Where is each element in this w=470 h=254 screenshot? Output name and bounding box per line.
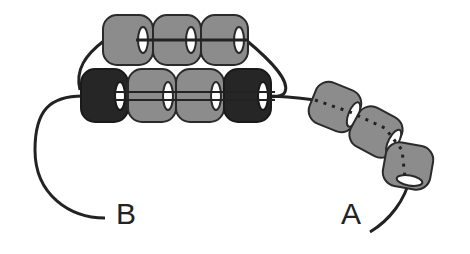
bead-hole bbox=[163, 82, 173, 110]
label-b: B bbox=[116, 199, 136, 229]
bead-hole bbox=[115, 82, 125, 110]
strand-a-beads bbox=[305, 78, 436, 192]
bead-hole bbox=[211, 82, 221, 110]
diagram-canvas bbox=[0, 0, 470, 254]
bottom-row-beads bbox=[81, 69, 275, 122]
bead-hole bbox=[258, 82, 268, 110]
bead-strand-3 bbox=[381, 140, 436, 192]
beading-diagram: B A bbox=[0, 0, 470, 254]
label-a: A bbox=[341, 199, 361, 229]
top-row-beads bbox=[103, 15, 248, 65]
